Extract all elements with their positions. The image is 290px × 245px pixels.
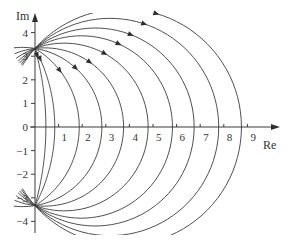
im-axis-arrow-icon	[32, 13, 38, 22]
im-tick-label: −1	[16, 145, 28, 157]
re-tick-label: 4	[132, 131, 138, 143]
direction-arrow-icon	[127, 31, 134, 36]
im-tick-label: −3	[16, 192, 28, 204]
complex-plane-diagram: Re Im 123456789 43210−1−2−3−4	[0, 0, 290, 245]
im-tick-label: −2	[16, 168, 28, 180]
im-axis-label: Im	[16, 9, 30, 23]
re-axis-arrow-icon	[271, 124, 280, 130]
re-tick-label: 3	[109, 131, 115, 143]
re-tick-label: 7	[203, 131, 209, 143]
re-tick-label: 8	[227, 131, 233, 143]
direction-arrow-icon	[86, 58, 92, 64]
direction-arrow-icon	[141, 20, 148, 25]
re-tick-label: 1	[62, 131, 68, 143]
im-tick-label: 0	[23, 121, 29, 133]
im-tick-label: 1	[23, 97, 29, 109]
im-tick-label: 3	[23, 50, 29, 62]
re-tick-label: 9	[250, 131, 256, 143]
re-tick-label: 5	[156, 131, 162, 143]
re-tick-label: 2	[85, 131, 91, 143]
im-tick-label: 4	[23, 27, 29, 39]
im-tick-label: 2	[23, 74, 29, 86]
im-tick-label: −4	[16, 215, 28, 227]
re-axis-label: Re	[263, 138, 276, 152]
direction-arrow-icon	[153, 10, 159, 15]
re-tick-label: 6	[180, 131, 186, 143]
